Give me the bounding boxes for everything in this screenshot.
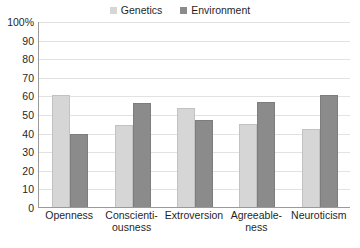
bar-environment-conscientiousness — [133, 103, 151, 207]
bar-group — [226, 22, 288, 207]
x-axis-category-label: Neuroticism — [288, 210, 350, 222]
y-axis-tick-label: 20 — [0, 166, 34, 177]
bar-genetics-openness — [52, 95, 70, 207]
chart-legend: Genetics Environment — [0, 2, 360, 18]
legend-label-genetics: Genetics — [121, 5, 162, 16]
bar-environment-neuroticism — [320, 95, 338, 207]
y-axis-tick-label: 30 — [0, 147, 34, 158]
bar-genetics-neuroticism — [302, 129, 320, 207]
bar-group — [39, 22, 101, 207]
y-axis-tick-label: 80 — [0, 54, 34, 65]
y-axis-tick-label: 10 — [0, 184, 34, 195]
bar-genetics-extroversion — [177, 108, 195, 207]
bar-genetics-conscientiousness — [115, 125, 133, 207]
y-axis-tick-label: 90 — [0, 35, 34, 46]
y-axis-tick-label: 0 — [0, 203, 34, 214]
x-axis-category-label: Agreeable- ness — [225, 210, 287, 233]
bar-group — [164, 22, 226, 207]
bar-environment-agreeableness — [257, 102, 275, 207]
legend-entry-genetics: Genetics — [110, 5, 162, 16]
legend-entry-environment: Environment — [180, 5, 250, 16]
bar-environment-extroversion — [195, 120, 213, 207]
x-axis-category-label: Openness — [38, 210, 100, 222]
x-axis: OpennessConscienti- ousnessExtroversionA… — [38, 210, 350, 248]
y-axis-tick-label: 100% — [0, 17, 34, 28]
bar-genetics-agreeableness — [239, 124, 257, 207]
bars-layer — [39, 22, 350, 207]
bar-environment-openness — [70, 134, 88, 207]
x-axis-category-label: Conscienti- ousness — [100, 210, 162, 233]
legend-label-environment: Environment — [191, 5, 250, 16]
y-axis-tick-label: 60 — [0, 91, 34, 102]
plot-area — [38, 22, 350, 208]
legend-swatch-environment-icon — [180, 7, 187, 14]
x-axis-category-label: Extroversion — [163, 210, 225, 222]
y-axis-tick-label: 70 — [0, 73, 34, 84]
y-axis-tick-label: 50 — [0, 110, 34, 121]
bar-group — [289, 22, 351, 207]
y-axis-tick-label: 40 — [0, 128, 34, 139]
bar-chart: Genetics Environment 0102030405060708090… — [0, 0, 360, 248]
y-axis: 0102030405060708090100% — [0, 22, 34, 208]
legend-swatch-genetics-icon — [110, 7, 117, 14]
bar-group — [101, 22, 163, 207]
